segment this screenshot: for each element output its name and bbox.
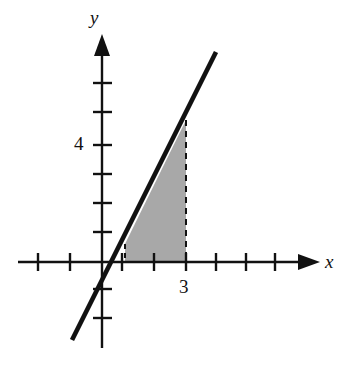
plotted-line <box>72 52 216 340</box>
coordinate-plane <box>0 0 348 365</box>
x-axis-arrowhead <box>298 254 320 270</box>
x-axis-label: x <box>325 252 333 271</box>
x-tick-label-3: 3 <box>179 277 189 296</box>
y-axis-label: y <box>90 8 98 27</box>
y-axis-arrowhead <box>94 34 110 56</box>
shaded-area-region <box>125 120 186 262</box>
graph-figure: y x 4 3 <box>0 0 348 365</box>
y-tick-label-4: 4 <box>74 134 84 153</box>
